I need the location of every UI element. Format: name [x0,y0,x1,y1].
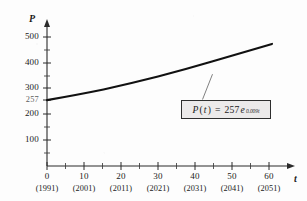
equation-equals-sign: = [215,104,221,115]
x-tick-year-2041: (2041) [212,185,252,193]
exponential-growth-figure: P t 500 400 300 257 200 100 0 10 20 30 4… [0,0,307,201]
x-tick-number-60: 60 [254,172,284,181]
exponential-curve [47,44,272,100]
equation-variable: t [204,104,207,115]
equation-coefficient: 257 [225,104,240,115]
x-tick-year-2031: (2031) [175,185,215,193]
equation-function-name: P [192,104,198,115]
equation-text: P(t)=257e0.009t [192,104,259,115]
x-tick-year-2001: (2001) [64,185,104,193]
equation-base: e [240,104,244,115]
y-tick-label-100: 100 [13,135,39,144]
x-tick-number-40: 40 [180,172,210,181]
y-tick-label-200: 200 [13,109,39,118]
y-tick-label-300: 300 [13,83,39,92]
x-tick-number-50: 50 [217,172,247,181]
y-tick-label-400: 400 [13,58,39,67]
x-tick-number-0: 0 [32,172,62,181]
x-tick-number-30: 30 [143,172,173,181]
y-tick-label-257: 257 [13,96,39,104]
x-tick-number-20: 20 [106,172,136,181]
x-tick-year-2051: (2051) [249,185,289,193]
x-axis-label: t [294,174,297,184]
y-tick-label-500: 500 [13,32,39,41]
annotation-leader-line [203,74,213,99]
x-tick-year-2011: (2011) [101,185,141,193]
x-axis-arrowhead [287,163,295,169]
equation-close-paren: ) [208,104,211,115]
y-axis-arrowhead [44,19,50,27]
equation-open-paren: ( [200,104,203,115]
x-tick-year-1991: (1991) [27,185,67,193]
y-axis-label: P [29,14,35,24]
equation-exponent: 0.009t [246,108,260,114]
x-tick-year-2021: (2021) [138,185,178,193]
equation-annotation-box: P(t)=257e0.009t [181,100,271,119]
x-tick-number-10: 10 [69,172,99,181]
